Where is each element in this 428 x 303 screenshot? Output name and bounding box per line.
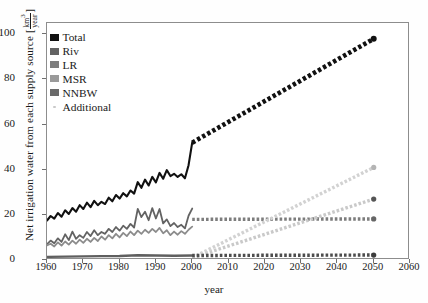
y-tick-mark — [42, 78, 46, 79]
legend-item-riv[interactable]: Riv — [50, 45, 111, 57]
legend-item-msr[interactable]: MSR — [50, 73, 111, 85]
chart-figure: Net irrigation water from each supply so… — [0, 0, 428, 303]
y-axis-label: Net irrigation water from each supply so… — [20, 0, 38, 250]
legend-label: LR — [63, 59, 78, 71]
legend-swatch-riv-icon — [50, 48, 59, 55]
legend-swatch-lr-icon — [50, 61, 59, 68]
legend-swatch-msr-icon — [50, 75, 59, 82]
endpoint-marker-total — [371, 36, 377, 42]
endpoint-marker-msr — [371, 196, 376, 201]
x-tick-mark — [336, 259, 337, 263]
series-additional_projection — [192, 167, 374, 257]
y-tick-label: 60 — [0, 118, 15, 129]
y-tick-label: 0 — [0, 253, 15, 264]
x-tick-mark — [228, 259, 229, 263]
endpoint-marker-additional — [371, 165, 376, 170]
legend-label: Additional — [63, 101, 112, 113]
x-tick-label: 2060 — [386, 262, 428, 273]
y-tick-label: 40 — [0, 163, 15, 174]
legend-item-additional[interactable]: Additional — [50, 101, 111, 113]
x-tick-mark — [264, 259, 265, 263]
legend-swatch-additional-icon — [50, 103, 59, 110]
x-tick-mark — [409, 259, 410, 263]
y-axis-label-text: Net irrigation water from each supply so… — [23, 36, 35, 241]
x-tick-mark — [82, 259, 83, 263]
endpoint-marker-lr — [371, 216, 376, 221]
x-tick-mark — [46, 259, 47, 263]
x-tick-mark — [119, 259, 120, 263]
y-tick-mark — [42, 214, 46, 215]
chart-legend: TotalRivLRMSRNNBWAdditional — [50, 31, 111, 113]
endpoint-marker-nnbw — [371, 252, 376, 257]
y-unit-exponent: 3 — [19, 14, 27, 18]
x-tick-mark — [191, 259, 192, 263]
y-tick-mark — [42, 33, 46, 34]
y-tick-mark — [42, 169, 46, 170]
legend-label: NNBW — [63, 87, 98, 99]
x-tick-mark — [300, 259, 301, 263]
y-tick-label: 80 — [0, 72, 15, 83]
y-tick-label: 100 — [0, 27, 15, 38]
series-total — [47, 143, 192, 221]
legend-label: Total — [63, 31, 86, 43]
y-tick-label: 20 — [0, 208, 15, 219]
y-axis-unit: km3 year — [20, 13, 39, 29]
series-total_projection — [192, 39, 374, 143]
y-tick-mark — [42, 124, 46, 125]
x-tick-mark — [373, 259, 374, 263]
x-axis-label: year — [0, 283, 428, 295]
series-msr_projection — [192, 199, 374, 258]
legend-label: MSR — [63, 73, 87, 85]
series-nnbw — [47, 255, 192, 257]
legend-swatch-nnbw-icon — [50, 89, 59, 96]
legend-swatch-total-icon — [50, 34, 59, 41]
legend-item-total[interactable]: Total — [50, 31, 111, 43]
x-tick-mark — [155, 259, 156, 263]
legend-item-lr[interactable]: LR — [50, 59, 111, 71]
y-unit-denominator: year — [30, 13, 39, 28]
legend-item-nnbw[interactable]: NNBW — [50, 87, 111, 99]
legend-label: Riv — [63, 45, 79, 57]
